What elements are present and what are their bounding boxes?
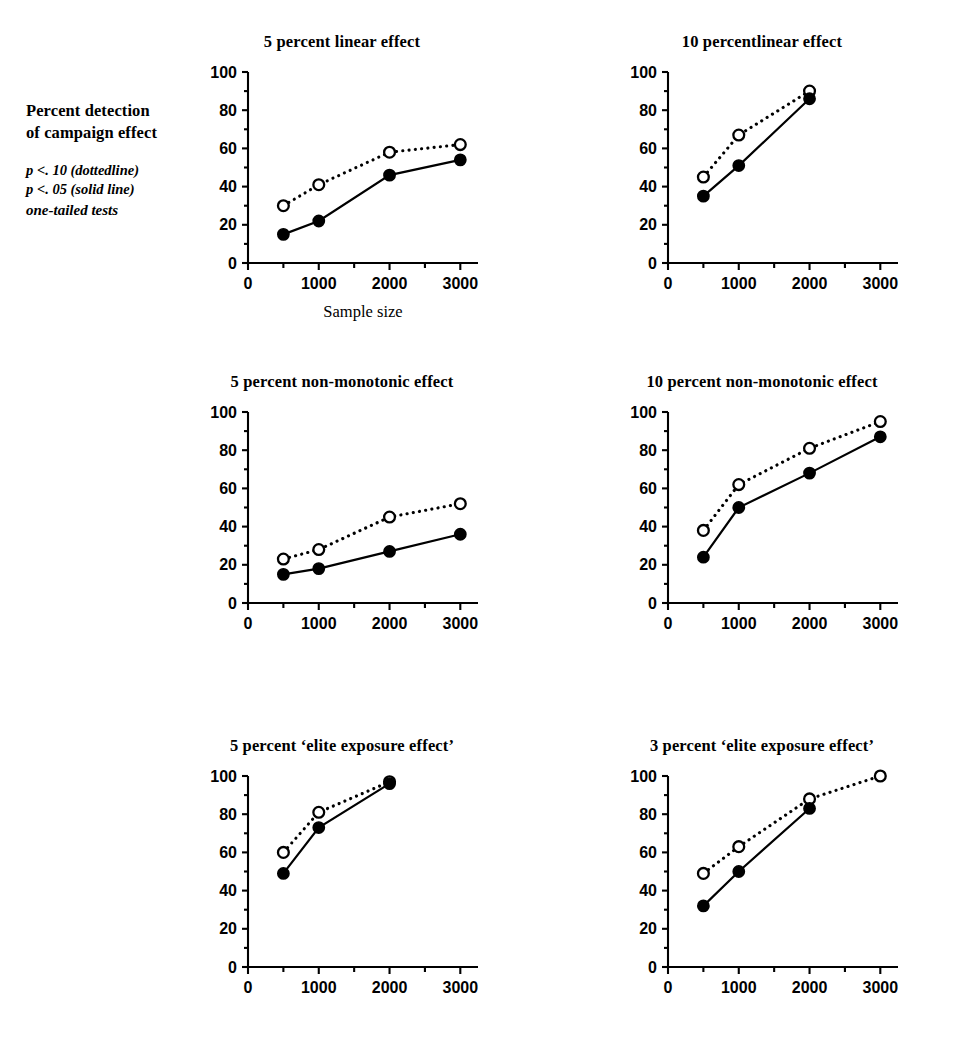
legend-heading-line-2: of campaign effect (26, 122, 221, 144)
data-point-p10-500 (278, 554, 289, 565)
data-point-p05-3000 (875, 431, 886, 442)
x-tick-label-3000: 3000 (863, 615, 899, 632)
series-line-p05 (283, 534, 460, 574)
series-line-p05 (283, 784, 389, 874)
y-tick-label-40: 40 (639, 178, 657, 195)
chart-title-ten-percent-non-monotonic-effect: 10 percent non-monotonic effect (616, 372, 908, 392)
data-point-p10-2000 (384, 147, 395, 158)
data-point-p05-2000 (384, 170, 395, 181)
x-tick-label-1000: 1000 (301, 615, 337, 632)
y-tick-label-80: 80 (219, 442, 237, 459)
data-point-p05-1000 (733, 866, 744, 877)
y-tick-label-80: 80 (219, 806, 237, 823)
series-line-p05 (703, 99, 809, 196)
chart-plot-ten-percent-non-monotonic-effect: 0204060801000100020003000 (616, 396, 908, 661)
x-tick-label-0: 0 (664, 979, 673, 996)
y-tick-label-100: 100 (630, 768, 657, 785)
data-point-p05-1000 (733, 160, 744, 171)
y-tick-label-80: 80 (639, 102, 657, 119)
data-point-p05-1000 (313, 822, 324, 833)
data-point-p05-2000 (384, 778, 395, 789)
data-point-p10-1000 (733, 130, 744, 141)
x-tick-label-2000: 2000 (372, 275, 408, 292)
chart-title-five-percent-non-monotonic-effect: 5 percent non-monotonic effect (196, 372, 488, 392)
legend-spacer (26, 144, 221, 161)
x-tick-label-1000: 1000 (721, 979, 757, 996)
data-point-p05-500 (698, 552, 709, 563)
x-tick-label-3000: 3000 (443, 615, 479, 632)
chart-title-ten-percent-linear-effect: 10 percentlinear effect (616, 32, 908, 52)
data-point-p05-500 (278, 868, 289, 879)
y-tick-label-100: 100 (210, 768, 237, 785)
chart-plot-ten-percent-linear-effect: 0204060801000100020003000 (616, 56, 908, 321)
y-tick-label-100: 100 (210, 404, 237, 421)
data-point-p10-3000 (455, 498, 466, 509)
legend-p10-note: p <. 10 (dottedline) (26, 161, 221, 181)
x-tick-label-0: 0 (664, 615, 673, 632)
y-tick-label-40: 40 (639, 882, 657, 899)
x-tick-label-0: 0 (244, 615, 253, 632)
chart-plot-three-percent-elite-exposure-effect: 0204060801000100020003000 (616, 760, 908, 1025)
data-point-p10-1000 (733, 841, 744, 852)
data-point-p05-500 (278, 569, 289, 580)
data-point-p10-2000 (804, 443, 815, 454)
y-tick-label-60: 60 (219, 844, 237, 861)
data-point-p05-500 (698, 900, 709, 911)
x-tick-label-2000: 2000 (372, 615, 408, 632)
y-tick-label-0: 0 (228, 595, 237, 612)
x-tick-label-0: 0 (664, 275, 673, 292)
x-tick-label-2000: 2000 (792, 979, 828, 996)
data-point-p10-500 (698, 525, 709, 536)
data-point-p10-3000 (455, 139, 466, 150)
y-tick-label-20: 20 (639, 920, 657, 937)
x-tick-label-2000: 2000 (372, 979, 408, 996)
y-tick-label-80: 80 (639, 806, 657, 823)
chart-title-three-percent-elite-exposure-effect: 3 percent ‘elite exposure effect’ (616, 736, 908, 756)
legend-tails-note: one-tailed tests (26, 200, 221, 220)
data-point-p10-500 (698, 172, 709, 183)
chart-title-five-percent-elite-exposure-effect: 5 percent ‘elite exposure effect’ (196, 736, 488, 756)
data-point-p10-1000 (313, 807, 324, 818)
y-tick-label-40: 40 (219, 882, 237, 899)
y-tick-label-40: 40 (219, 518, 237, 535)
data-point-p10-500 (698, 868, 709, 879)
series-line-p10 (703, 91, 809, 177)
data-point-p05-1000 (313, 215, 324, 226)
legend-heading-line-1: Percent detection (26, 100, 221, 122)
x-tick-label-2000: 2000 (792, 275, 828, 292)
x-tick-label-1000: 1000 (301, 275, 337, 292)
series-line-p10 (283, 145, 460, 206)
y-tick-label-100: 100 (630, 404, 657, 421)
y-tick-label-60: 60 (219, 480, 237, 497)
chart-title-five-percent-linear-effect: 5 percent linear effect (196, 32, 488, 52)
x-tick-label-1000: 1000 (301, 979, 337, 996)
y-tick-label-80: 80 (219, 102, 237, 119)
y-tick-label-0: 0 (648, 959, 657, 976)
y-tick-label-100: 100 (210, 64, 237, 81)
data-point-p05-3000 (455, 154, 466, 165)
data-point-p05-3000 (455, 529, 466, 540)
data-point-p05-2000 (804, 93, 815, 104)
y-tick-label-20: 20 (639, 216, 657, 233)
data-point-p05-1000 (733, 502, 744, 513)
y-tick-label-40: 40 (219, 178, 237, 195)
y-tick-label-0: 0 (228, 255, 237, 272)
chart-plot-five-percent-linear-effect: 0204060801000100020003000Sample size (196, 56, 488, 321)
data-point-p10-1000 (313, 544, 324, 555)
data-point-p10-1000 (733, 479, 744, 490)
x-tick-label-3000: 3000 (443, 275, 479, 292)
y-tick-label-60: 60 (219, 140, 237, 157)
x-tick-label-1000: 1000 (721, 275, 757, 292)
x-tick-label-1000: 1000 (721, 615, 757, 632)
figure-legend: Percent detection of campaign effect p <… (26, 100, 221, 220)
data-point-p05-1000 (313, 563, 324, 574)
x-tick-label-3000: 3000 (443, 979, 479, 996)
data-point-p10-500 (278, 200, 289, 211)
y-tick-label-20: 20 (219, 920, 237, 937)
series-line-p10 (283, 504, 460, 559)
x-tick-label-2000: 2000 (792, 615, 828, 632)
y-tick-label-80: 80 (639, 442, 657, 459)
y-tick-label-60: 60 (639, 844, 657, 861)
data-point-p10-500 (278, 847, 289, 858)
x-tick-label-0: 0 (244, 275, 253, 292)
